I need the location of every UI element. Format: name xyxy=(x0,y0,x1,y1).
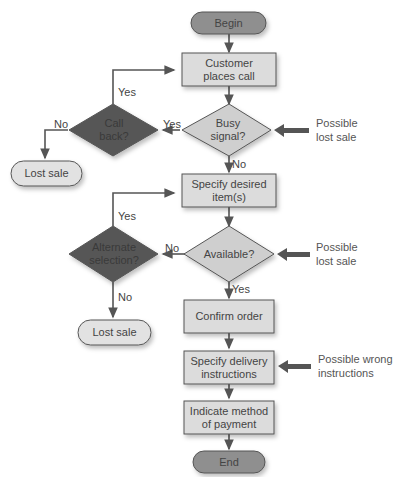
available-label: Available? xyxy=(194,244,264,264)
lost-sale-2-label: Lost sale xyxy=(78,320,151,345)
delivery-instructions-label: Specify delivery instructions xyxy=(184,351,274,384)
specify-items-label: Specify desired item(s) xyxy=(182,174,276,207)
delivery-annotation: Possible wrong instructions xyxy=(318,352,393,380)
lost-sale-1-label: Lost sale xyxy=(11,161,82,186)
alternate-no-label: No xyxy=(118,291,132,303)
busy-no-label: No xyxy=(232,158,246,170)
busy-yes-label: Yes xyxy=(163,118,181,130)
callback-yes-label: Yes xyxy=(118,86,136,98)
annotation-arrows xyxy=(274,124,311,373)
available-no-label: No xyxy=(165,242,179,254)
call-back-label: Call back? xyxy=(84,113,144,147)
busy-signal-label: Busy signal? xyxy=(195,113,261,147)
busy-annotation: Possible lost sale xyxy=(316,116,358,144)
begin-label: Begin xyxy=(191,12,266,34)
confirm-order-label: Confirm order xyxy=(184,300,274,333)
available-yes-label: Yes xyxy=(232,283,250,295)
alternate-selection-label: Alternate selection? xyxy=(80,237,148,271)
payment-label: Indicate method of payment xyxy=(184,401,274,434)
available-annotation: Possible lost sale xyxy=(316,240,358,268)
alternate-yes-label: Yes xyxy=(118,210,136,222)
customer-places-call-label: Customer places call xyxy=(182,53,276,86)
callback-no-label: No xyxy=(54,118,68,130)
end-label: End xyxy=(193,451,265,473)
